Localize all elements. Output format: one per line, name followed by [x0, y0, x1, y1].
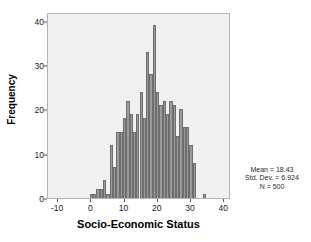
histogram-figure: Frequency 010203040 -10010203040 Socio-E… [0, 0, 311, 242]
x-tick-label: 0 [88, 203, 93, 213]
y-tick-label: 30 [22, 61, 44, 71]
x-tick-mark [157, 199, 158, 202]
y-axis-ticks: 010203040 [19, 0, 44, 242]
x-tick-label: 30 [185, 203, 194, 213]
histogram-bar [203, 194, 206, 198]
statistics-annotation: Mean = 18.43 Std. Dev. = 6.924 N = 500 [236, 166, 308, 191]
y-axis-title: Frequency [2, 0, 20, 199]
x-tick-mark [124, 199, 125, 202]
x-axis-title: Socio-Economic Status [47, 218, 230, 230]
x-tick-label: -10 [51, 203, 63, 213]
x-tick-mark [90, 199, 91, 202]
x-tick-mark [57, 199, 58, 202]
y-tick-label: 10 [22, 150, 44, 160]
plot-area [47, 13, 230, 199]
y-tick-label: 40 [22, 17, 44, 27]
stat-n: N = 500 [236, 183, 308, 191]
histogram-bar [193, 163, 196, 198]
stat-stddev: Std. Dev. = 6.924 [236, 174, 308, 182]
stat-mean: Mean = 18.43 [236, 166, 308, 174]
x-tick-label: 40 [219, 203, 228, 213]
x-tick-mark [223, 199, 224, 202]
x-tick-mark [190, 199, 191, 202]
histogram-bars [48, 14, 229, 198]
y-tick-label: 0 [22, 194, 44, 204]
y-tick-label: 20 [22, 105, 44, 115]
x-tick-label: 20 [152, 203, 161, 213]
x-tick-label: 10 [119, 203, 128, 213]
y-axis-title-label: Frequency [6, 74, 17, 125]
